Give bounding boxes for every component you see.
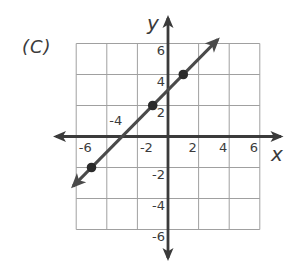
data-point bbox=[87, 163, 97, 173]
y-tick-label: 2 bbox=[157, 105, 165, 120]
y-tick-label: 4 bbox=[157, 74, 165, 89]
y-axis-label: y bbox=[146, 11, 160, 35]
x-tick-label: 2 bbox=[188, 140, 196, 155]
data-point bbox=[148, 101, 158, 111]
y-tick-label: 6 bbox=[157, 43, 165, 58]
x-tick-label: -2 bbox=[140, 140, 153, 155]
x-tick-label: 6 bbox=[250, 140, 258, 155]
graph-canvas: (C) xy-6-4-2246642-2-4-6 bbox=[0, 0, 301, 263]
data-point bbox=[179, 70, 189, 80]
x-tick-label: -4 bbox=[109, 113, 122, 128]
x-tick-label: -6 bbox=[79, 140, 92, 155]
y-tick-label: -2 bbox=[152, 167, 165, 182]
y-tick-label: -6 bbox=[152, 229, 165, 244]
y-tick-label: -4 bbox=[152, 198, 165, 213]
x-axis-label: x bbox=[270, 142, 283, 166]
x-tick-label: 4 bbox=[219, 140, 227, 155]
coordinate-plane: xy-6-4-2246642-2-4-6 bbox=[0, 0, 301, 263]
